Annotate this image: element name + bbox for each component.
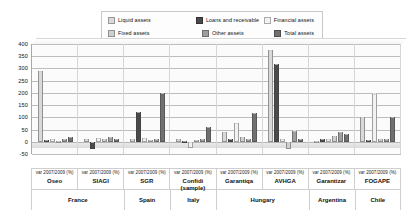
legend-label-financial-assets: Financial assets xyxy=(274,17,314,24)
bar[interactable] xyxy=(366,140,371,142)
bar-slot xyxy=(292,44,297,154)
bar-slot xyxy=(130,44,135,154)
bar[interactable] xyxy=(148,140,153,142)
bar-cap xyxy=(69,136,72,138)
bar-cap xyxy=(345,133,348,135)
bar[interactable] xyxy=(292,131,297,142)
country-axis-cell: Italy xyxy=(170,190,216,210)
bar[interactable] xyxy=(280,139,285,141)
country-axis-cell: Chile xyxy=(355,190,401,210)
bar-group xyxy=(217,44,263,154)
category-name: Garantizar xyxy=(309,178,354,185)
group-separator xyxy=(400,44,401,154)
gridline xyxy=(32,154,401,155)
bar[interactable] xyxy=(360,117,365,141)
bar-cap xyxy=(269,49,272,51)
bar[interactable] xyxy=(372,94,377,142)
bar[interactable] xyxy=(84,139,89,141)
legend-swatch-liquid-assets xyxy=(108,17,115,24)
bar-cap xyxy=(201,138,204,140)
bar[interactable] xyxy=(268,50,273,142)
bar[interactable] xyxy=(102,139,107,141)
bar[interactable] xyxy=(56,141,61,143)
bar[interactable] xyxy=(108,137,113,141)
bar[interactable] xyxy=(390,117,395,141)
country-name: Hungary xyxy=(217,196,309,204)
bar[interactable] xyxy=(228,139,233,142)
bar[interactable] xyxy=(136,112,141,141)
country-name: France xyxy=(32,196,124,204)
bar-group xyxy=(78,44,124,154)
y-axis-tick: 0 xyxy=(25,139,28,145)
y-axis-tick: 150 xyxy=(18,102,28,108)
bar[interactable] xyxy=(332,136,337,142)
bar[interactable] xyxy=(188,142,193,148)
category-axis-cell: var 2007/2009 (%)SGR xyxy=(123,168,169,190)
bar[interactable] xyxy=(378,139,383,141)
bar[interactable] xyxy=(154,139,159,141)
bar-slot xyxy=(268,44,273,154)
category-name: FOGAPE xyxy=(355,178,400,185)
bar[interactable] xyxy=(344,134,349,141)
bar-cap xyxy=(333,135,336,137)
bar-slot xyxy=(38,44,43,154)
bar[interactable] xyxy=(90,142,95,149)
bar-slot xyxy=(246,44,251,154)
bar-cap xyxy=(315,140,318,142)
bar[interactable] xyxy=(130,139,135,142)
bar[interactable] xyxy=(240,137,245,141)
bar[interactable] xyxy=(314,141,319,143)
legend-label-liquid-assets: Liquid assets xyxy=(118,17,151,24)
bar-slot xyxy=(332,44,337,154)
bar[interactable] xyxy=(96,138,101,142)
bar-slot xyxy=(84,44,89,154)
bar[interactable] xyxy=(44,140,49,142)
category-var-label: var 2007/2009 (%) xyxy=(124,170,169,176)
bar-cap xyxy=(57,140,60,142)
bar[interactable] xyxy=(384,139,389,142)
bar[interactable] xyxy=(234,123,239,141)
bar[interactable] xyxy=(114,139,119,142)
bar[interactable] xyxy=(38,71,43,142)
country-axis-cell: Argentina xyxy=(309,190,355,210)
bar-slot xyxy=(102,44,107,154)
bar-group-bars xyxy=(263,44,309,154)
legend-swatch-financial-assets xyxy=(264,17,271,24)
bar[interactable] xyxy=(142,138,147,142)
bar[interactable] xyxy=(286,142,291,149)
category-axis-cell: var 2007/2009 (%)Garantizar xyxy=(308,168,354,190)
bar-group xyxy=(309,44,355,154)
bar-cap xyxy=(161,92,164,94)
bar[interactable] xyxy=(326,139,331,142)
category-var-label: var 2007/2009 (%) xyxy=(32,170,77,176)
bar[interactable] xyxy=(320,139,325,141)
bar-group-bars xyxy=(170,44,216,154)
bar[interactable] xyxy=(298,139,303,142)
bar[interactable] xyxy=(246,139,251,141)
plot-wrapper: 400350300250200150100500-50 xyxy=(0,44,407,169)
category-var-label: var 2007/2009 (%) xyxy=(309,170,354,176)
bar-cap xyxy=(85,138,88,140)
bar-group-bars xyxy=(355,44,401,154)
legend-row-1: Liquid assets Loans and receivable Finan… xyxy=(108,15,318,26)
bar[interactable] xyxy=(252,113,257,142)
bar-group xyxy=(263,44,309,154)
bar[interactable] xyxy=(200,139,205,142)
bar[interactable] xyxy=(160,93,165,142)
bar[interactable] xyxy=(182,141,187,143)
bar-slot xyxy=(142,44,147,154)
bar[interactable] xyxy=(338,132,343,141)
bar-slot xyxy=(252,44,257,154)
category-name: SGR xyxy=(124,178,169,185)
bar[interactable] xyxy=(222,132,227,142)
bar[interactable] xyxy=(176,139,181,141)
bar[interactable] xyxy=(68,137,73,141)
bar[interactable] xyxy=(50,139,55,141)
bar[interactable] xyxy=(194,140,199,142)
bar[interactable] xyxy=(62,139,67,142)
bar-cap xyxy=(39,70,42,72)
bar-group xyxy=(32,44,78,154)
bar-slot xyxy=(206,44,211,154)
bar[interactable] xyxy=(206,127,211,142)
bar[interactable] xyxy=(274,64,279,142)
